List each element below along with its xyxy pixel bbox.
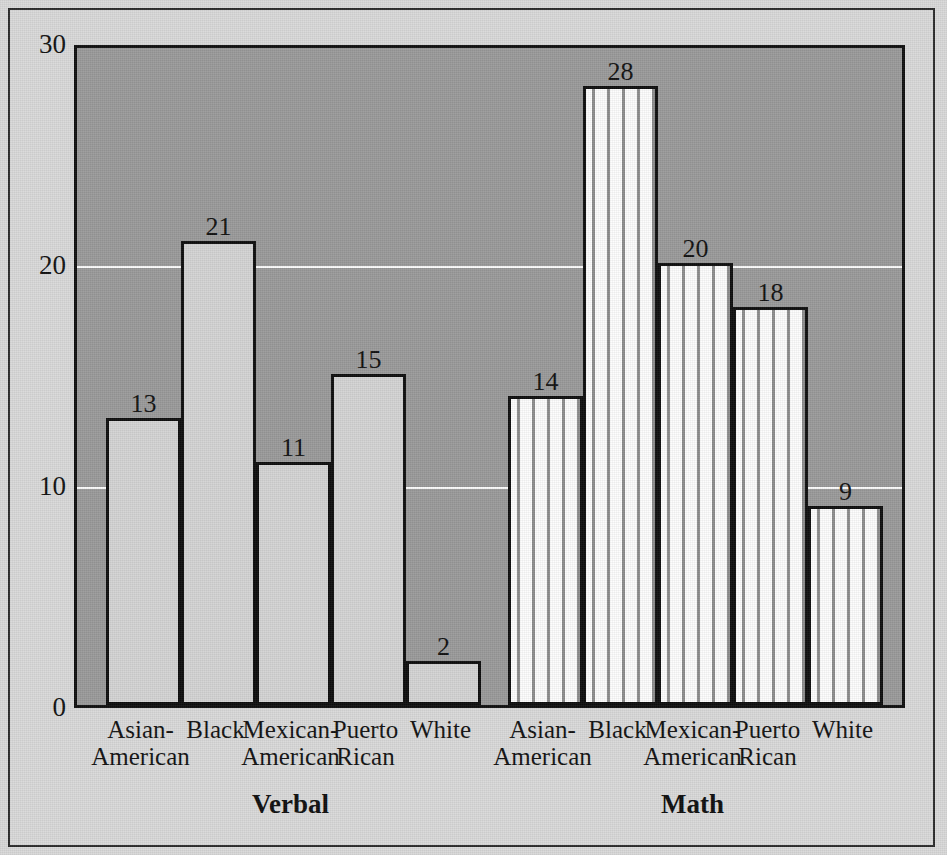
x-axis-label-line2: American — [89, 743, 192, 770]
x-axis-label-verbal-white: White — [389, 716, 492, 743]
bar-value-label-verbal-puerto-rican: 15 — [334, 347, 403, 373]
bar-value-label-verbal-white: 2 — [409, 634, 478, 660]
y-axis-tick-label-20: 20 — [6, 252, 66, 279]
bar-value-label-verbal-asian-american: 13 — [109, 391, 178, 417]
x-axis-label-line1: Black — [186, 716, 244, 743]
bar-verbal-mexican-american: 11 — [256, 462, 331, 705]
bar-value-label-math-asian-american: 14 — [511, 369, 580, 395]
bar-value-label-math-black: 28 — [586, 59, 655, 85]
x-axis-label-line2: American — [491, 743, 594, 770]
group-label-math: Math — [593, 791, 793, 818]
bar-math-puerto-rican: 18 — [733, 307, 808, 705]
bar-verbal-black: 21 — [181, 241, 256, 705]
y-axis-tick-label-0: 0 — [6, 694, 66, 721]
x-axis-label-line2: Rican — [314, 743, 417, 770]
x-axis-label-line2: Rican — [716, 743, 819, 770]
x-axis-label-line1: White — [812, 716, 873, 743]
bar-value-label-verbal-mexican-american: 11 — [259, 435, 328, 461]
chart-page: 3020100 132111152142820189 Asian-America… — [0, 0, 947, 855]
x-axis-label-math-white: White — [791, 716, 894, 743]
bar-verbal-white: 2 — [406, 661, 481, 705]
group-label-verbal: Verbal — [191, 791, 391, 818]
bar-value-label-math-white: 9 — [811, 479, 880, 505]
x-axis-label-line1: Black — [588, 716, 646, 743]
y-axis-tick-label-30: 30 — [6, 31, 66, 58]
bar-value-label-math-mexican-american: 20 — [661, 236, 730, 262]
x-axis-label-line1: White — [410, 716, 471, 743]
bar-math-mexican-american: 20 — [658, 263, 733, 705]
plot-area: 132111152142820189 — [74, 45, 905, 708]
bar-verbal-puerto-rican: 15 — [331, 374, 406, 706]
bar-math-asian-american: 14 — [508, 396, 583, 705]
bar-value-label-verbal-black: 21 — [184, 214, 253, 240]
bar-verbal-asian-american: 13 — [106, 418, 181, 705]
bar-value-label-math-puerto-rican: 18 — [736, 280, 805, 306]
y-axis-tick-label-10: 10 — [6, 473, 66, 500]
bar-math-white: 9 — [808, 506, 883, 705]
bar-math-black: 28 — [583, 86, 658, 705]
